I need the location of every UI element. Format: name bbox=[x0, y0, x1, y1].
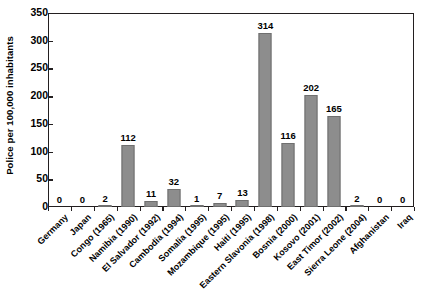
x-tick-mark bbox=[391, 207, 392, 211]
y-tick-label: 150 bbox=[30, 117, 48, 129]
bar-value-label: 2 bbox=[354, 193, 359, 204]
bar-group: 2 bbox=[94, 13, 117, 207]
bar-group: 32 bbox=[162, 13, 185, 207]
x-tick-mark bbox=[254, 207, 255, 211]
bar-group: 1 bbox=[185, 13, 208, 207]
bar bbox=[259, 33, 272, 207]
x-tick-mark bbox=[162, 207, 163, 211]
y-axis-title: Police per 100,000 inhabitants bbox=[0, 0, 18, 210]
x-tick-mark bbox=[71, 207, 72, 211]
bar-value-label: 314 bbox=[257, 20, 273, 31]
y-tick-label: 100 bbox=[30, 145, 48, 157]
bar-group: 165 bbox=[323, 13, 346, 207]
bar bbox=[167, 189, 180, 207]
x-axis-label-text: Germany bbox=[36, 212, 71, 247]
y-axis-title-text: Police per 100,000 inhabitants bbox=[4, 36, 15, 175]
x-tick-mark bbox=[140, 207, 141, 211]
x-tick-mark bbox=[94, 207, 95, 211]
bar-value-label: 1 bbox=[194, 193, 199, 204]
bar-group: 0 bbox=[71, 13, 94, 207]
bar bbox=[282, 143, 295, 207]
y-tick-label: 350 bbox=[30, 6, 48, 18]
x-tick-mark bbox=[117, 207, 118, 211]
bar-value-label: 0 bbox=[80, 194, 85, 205]
x-axis-labels: GermanyJapanCongo (1965)Namibia (1990)El… bbox=[48, 212, 414, 307]
bar-value-label: 7 bbox=[217, 190, 222, 201]
x-tick-mark bbox=[277, 207, 278, 211]
x-tick-mark bbox=[48, 207, 49, 211]
x-tick-mark bbox=[323, 207, 324, 211]
bar-group: 314 bbox=[254, 13, 277, 207]
x-tick-mark bbox=[368, 207, 369, 211]
bar-value-label: 165 bbox=[326, 103, 342, 114]
bar bbox=[327, 116, 340, 207]
y-tick-label: 50 bbox=[36, 172, 48, 184]
bar-group: 0 bbox=[48, 13, 71, 207]
chart-figure: Police per 100,000 inhabitants 050100150… bbox=[0, 0, 424, 307]
bar-group: 112 bbox=[117, 13, 140, 207]
x-tick-mark bbox=[231, 207, 232, 211]
bar-value-label: 2 bbox=[103, 193, 108, 204]
bar-group: 0 bbox=[368, 13, 391, 207]
bar-group: 7 bbox=[208, 13, 231, 207]
x-tick-mark bbox=[185, 207, 186, 211]
y-tick-label: 200 bbox=[30, 89, 48, 101]
bar-value-label: 116 bbox=[281, 130, 296, 141]
x-tick-mark bbox=[345, 207, 346, 211]
bar bbox=[305, 95, 318, 207]
bar-group: 13 bbox=[231, 13, 254, 207]
y-tick-label: 250 bbox=[30, 61, 48, 73]
bar-group: 11 bbox=[140, 13, 163, 207]
bar-value-label: 0 bbox=[57, 194, 62, 205]
y-tick-label: 300 bbox=[30, 34, 48, 46]
bar-group: 2 bbox=[345, 13, 368, 207]
bar-value-label: 13 bbox=[237, 187, 248, 198]
bar-value-label: 11 bbox=[146, 188, 156, 199]
x-tick-mark bbox=[414, 207, 415, 211]
bar-value-label: 32 bbox=[169, 176, 180, 187]
bar-value-label: 112 bbox=[120, 132, 135, 143]
bar-group: 0 bbox=[391, 13, 414, 207]
bar-value-label: 0 bbox=[400, 194, 405, 205]
bar-value-label: 202 bbox=[303, 82, 319, 93]
x-axis-label-text: Iraq bbox=[395, 212, 414, 231]
bar-group: 202 bbox=[300, 13, 323, 207]
bar bbox=[122, 145, 135, 207]
bar bbox=[236, 200, 249, 207]
bar-value-label: 0 bbox=[377, 194, 382, 205]
x-tick-mark bbox=[208, 207, 209, 211]
bars-layer: 00211211321713314116202165200 bbox=[48, 13, 414, 207]
x-tick-mark bbox=[300, 207, 301, 211]
bar-group: 116 bbox=[277, 13, 300, 207]
